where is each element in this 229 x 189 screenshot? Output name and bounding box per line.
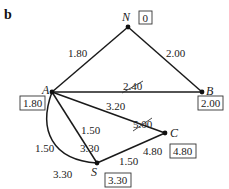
weight-a-s-straight: 1.50 bbox=[81, 124, 101, 136]
panel-label: b bbox=[4, 7, 12, 22]
node-a bbox=[50, 90, 55, 95]
weight-s-c: 1.50 bbox=[119, 155, 139, 167]
node-c bbox=[163, 131, 168, 136]
weight-a-s-curved: 1.50 bbox=[35, 142, 55, 154]
node-b bbox=[200, 90, 205, 95]
weight-a-c: 3.20 bbox=[106, 100, 126, 112]
node-n bbox=[126, 25, 131, 30]
weight-a-b-struck: 2.40 bbox=[123, 80, 143, 92]
weight-a-s-curved-secondary: 3.30 bbox=[53, 168, 73, 180]
weight-s-c-secondary: 4.80 bbox=[143, 145, 163, 157]
node-n-value: 0 bbox=[143, 12, 149, 24]
node-s-name: S bbox=[91, 165, 97, 179]
node-c-name: C bbox=[170, 126, 179, 140]
node-s-value: 3.30 bbox=[108, 174, 128, 186]
weight-n-b: 2.00 bbox=[166, 47, 186, 59]
node-c-value: 4.80 bbox=[173, 145, 193, 157]
node-n-name: N bbox=[121, 10, 131, 24]
node-a-name: A bbox=[41, 83, 50, 97]
node-a-value: 1.80 bbox=[23, 97, 43, 109]
weight-a-s-straight-secondary: 3.30 bbox=[80, 142, 100, 154]
edge-n-a bbox=[52, 27, 128, 92]
network-diagram: b N A B C S 0 1.80 2.00 4.80 3.30 1.80 2… bbox=[0, 0, 229, 189]
weight-n-a: 1.80 bbox=[68, 47, 88, 59]
node-b-value: 2.00 bbox=[201, 97, 221, 109]
